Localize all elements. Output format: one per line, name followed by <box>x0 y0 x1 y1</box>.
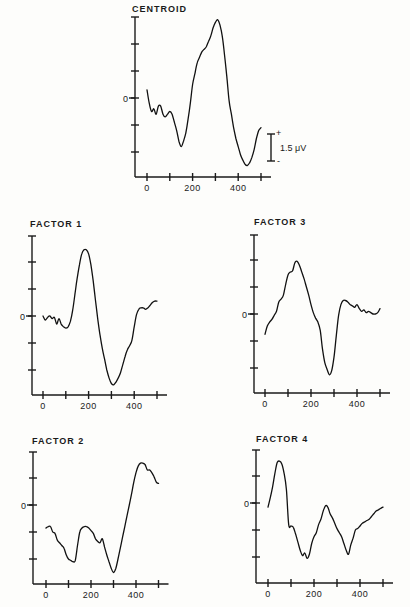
x-tick-label: 400 <box>126 401 143 411</box>
x-tick-label: 0 <box>144 183 150 193</box>
panel-centroid: CENTROID00200400+-1.5 μV <box>123 4 306 193</box>
x-tick-label: 400 <box>128 590 145 600</box>
panel-title: FACTOR 3 <box>254 217 306 227</box>
x-tick-label: 200 <box>83 590 100 600</box>
panel-title: FACTOR 2 <box>32 436 84 446</box>
y-zero-label: 0 <box>244 499 250 509</box>
scale-bar-plus: + <box>276 128 281 138</box>
x-tick-label: 400 <box>230 183 247 193</box>
y-zero-label: 0 <box>21 501 27 511</box>
erp-figure: CENTROID00200400+-1.5 μVFACTOR 100200400… <box>0 0 410 607</box>
x-tick-label: 0 <box>43 590 49 600</box>
scale-bar-label: 1.5 μV <box>280 143 306 153</box>
x-tick-label: 400 <box>349 399 366 409</box>
x-tick-label: 200 <box>306 589 323 599</box>
scale-bar-minus: - <box>277 156 280 166</box>
x-tick-label: 200 <box>80 401 97 411</box>
erp-trace-centroid <box>147 20 261 166</box>
erp-trace-factor3 <box>265 261 380 375</box>
panel-title: FACTOR 1 <box>30 219 82 229</box>
y-zero-label: 0 <box>242 310 248 320</box>
scale-bar: +-1.5 μV <box>267 128 306 166</box>
panel-factor3: FACTOR 300200400 <box>242 217 390 409</box>
erp-trace-factor2 <box>46 463 159 573</box>
panel-title: CENTROID <box>132 4 187 14</box>
x-tick-label: 0 <box>262 399 268 409</box>
x-tick-label: 0 <box>265 589 271 599</box>
panel-factor2: FACTOR 200200400 <box>21 436 169 600</box>
y-zero-label: 0 <box>20 312 26 322</box>
panel-factor1: FACTOR 100200400 <box>20 219 167 411</box>
panel-factor4: FACTOR 400200400 <box>244 434 393 599</box>
x-tick-label: 0 <box>40 401 46 411</box>
x-tick-label: 200 <box>303 399 320 409</box>
y-zero-label: 0 <box>123 94 129 104</box>
erp-trace-factor4 <box>268 461 383 558</box>
x-tick-label: 200 <box>184 183 201 193</box>
panel-title: FACTOR 4 <box>256 434 308 444</box>
erp-trace-factor1 <box>43 249 157 385</box>
x-tick-label: 400 <box>352 589 369 599</box>
